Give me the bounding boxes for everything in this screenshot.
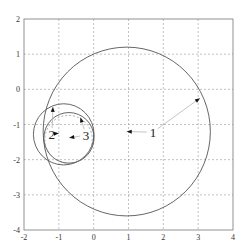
y-tick-label: 0 [16, 85, 20, 94]
x-tick-label: 3 [196, 233, 200, 242]
annotation-label-1: 1 [150, 125, 157, 140]
arrowhead-icon [54, 132, 59, 136]
y-tick-label: -4 [13, 226, 20, 235]
y-tick-label: -3 [13, 191, 20, 200]
x-tick-label: 1 [127, 233, 131, 242]
annotation-line [158, 98, 200, 129]
arrowhead-icon [195, 98, 200, 103]
arrowhead-icon [127, 130, 132, 134]
arrowhead-icon [69, 135, 74, 139]
x-tick-label: -2 [21, 233, 28, 242]
y-tick-label: 1 [16, 50, 20, 59]
x-tick-label: 2 [161, 233, 165, 242]
y-axis-ticks: 210-1-2-3-4 [13, 15, 20, 235]
x-axis-ticks: -2-101234 [21, 233, 235, 242]
y-tick-label: 2 [16, 15, 20, 24]
x-tick-label: 0 [92, 233, 96, 242]
x-tick-label: 4 [231, 233, 235, 242]
arrowhead-icon [80, 117, 84, 122]
circle-plot: -2-101234 210-1-2-3-4 123 [0, 0, 247, 251]
y-tick-label: -1 [13, 121, 20, 130]
arrowhead-icon [51, 107, 55, 112]
y-tick-label: -2 [13, 156, 20, 165]
x-tick-label: -1 [55, 233, 62, 242]
circles [33, 47, 210, 216]
grid-lines [24, 19, 233, 230]
annotation-label-3: 3 [83, 128, 90, 143]
